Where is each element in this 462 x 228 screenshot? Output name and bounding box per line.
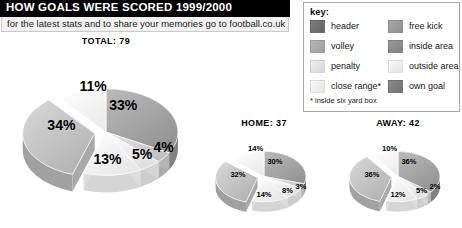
pie-chart-home: HOME: 3730%3%8%14%32%14% bbox=[200, 118, 328, 228]
legend-label: close range* bbox=[331, 81, 381, 91]
pie-caption: AWAY: 42 bbox=[334, 118, 462, 128]
pie-label-own-goal: 10% bbox=[368, 144, 412, 153]
pie-caption: TOTAL: 79 bbox=[6, 36, 206, 46]
legend-swatch-icon bbox=[388, 60, 403, 73]
pie-label-penalty: 13% bbox=[85, 151, 129, 167]
legend-swatch-icon bbox=[388, 40, 403, 53]
pie-label-own-goal: 14% bbox=[234, 144, 278, 153]
legend-label: volley bbox=[331, 41, 354, 51]
pie-svg bbox=[6, 50, 206, 226]
legend-label: inside area bbox=[409, 41, 453, 51]
legend-label: free kick bbox=[409, 21, 443, 31]
page-title: HOW GOALS WERE SCORED 1999/2000 bbox=[6, 1, 232, 13]
pie-label-header: 33% bbox=[101, 97, 145, 113]
pie-stage: 36%2%5%12%36%10% bbox=[334, 132, 462, 228]
pie-label-penalty: 12% bbox=[376, 190, 420, 199]
pie-chart-away: AWAY: 4236%2%5%12%36%10% bbox=[334, 118, 462, 228]
pie-label-inside-area: 36% bbox=[350, 170, 394, 179]
subtitle-text: for the latest stats and to share your m… bbox=[7, 18, 285, 29]
legend-swatch-icon bbox=[388, 80, 403, 93]
legend-label: outside area bbox=[409, 61, 459, 71]
legend-footnote: * inside six yard box bbox=[310, 96, 377, 105]
legend-label: own goal bbox=[409, 81, 445, 91]
pie-label-own-goal: 11% bbox=[71, 78, 115, 94]
pie-caption: HOME: 37 bbox=[200, 118, 328, 128]
legend-label: penalty bbox=[331, 61, 360, 71]
pie-label-inside-area: 34% bbox=[39, 117, 83, 133]
pie-chart-total: TOTAL: 7933%4%5%13%34%11% bbox=[6, 36, 206, 226]
legend-swatch-icon bbox=[310, 60, 325, 73]
pie-label-header: 36% bbox=[387, 157, 431, 166]
pie-stage: 30%3%8%14%32%14% bbox=[200, 132, 328, 228]
legend-title: key: bbox=[310, 6, 329, 17]
legend-swatch-icon bbox=[310, 40, 325, 53]
pie-stage: 33%4%5%13%34%11% bbox=[6, 50, 206, 226]
legend-swatch-icon bbox=[388, 20, 403, 33]
legend-swatch-icon bbox=[310, 20, 325, 33]
legend-label: header bbox=[331, 21, 359, 31]
pie-label-penalty: 14% bbox=[242, 190, 286, 199]
legend-swatch-icon bbox=[310, 80, 325, 93]
pie-label-header: 30% bbox=[253, 157, 297, 166]
pie-label-inside-area: 32% bbox=[216, 170, 260, 179]
